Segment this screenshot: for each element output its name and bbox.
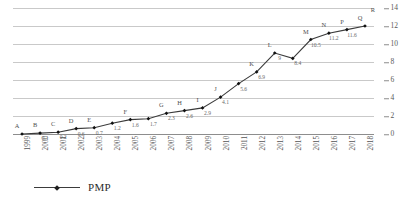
y-tick-label-8: 8 (384, 58, 406, 66)
point-value-8.4: 8.4 (294, 62, 301, 68)
point-letter-E: E (87, 116, 91, 122)
point-value-11.2: 11.2 (329, 36, 339, 42)
point-value-4.1: 4.1 (222, 100, 229, 106)
point-letter-C: C (51, 121, 55, 127)
point-letter-M: M (303, 28, 309, 34)
point-letter-B: B (33, 122, 37, 128)
plot-area (13, 8, 374, 134)
series-pmp (13, 8, 374, 134)
diamond-marker-icon (54, 185, 60, 191)
y-tick-label-12: 12 (384, 22, 406, 30)
point-letter-Q: Q (358, 15, 363, 21)
y-tick-label-6: 6 (384, 76, 406, 84)
y-tick-label-10: 10 (384, 40, 406, 48)
point-value-1.2: 1.2 (114, 126, 121, 132)
x-tick-label-2006: 2006 (151, 136, 158, 150)
x-tick-label-2017: 2017 (350, 136, 357, 150)
point-letter-P: P (340, 18, 344, 24)
point-value-2.3: 2.3 (168, 117, 175, 123)
point-letter-N: N (322, 22, 327, 28)
legend-line-swatch (34, 187, 80, 188)
x-tick-label-2007: 2007 (169, 136, 176, 150)
x-tick-label-2009: 2009 (206, 136, 213, 150)
y-tick-label-2: 2 (384, 112, 406, 120)
point-letter-G: G (159, 102, 164, 108)
x-tick-label-2002: 2002 (79, 136, 86, 150)
x-tick-label-2011: 2011 (242, 136, 249, 150)
point-letter-R: R (371, 7, 375, 13)
point-value-1.6: 1.6 (132, 123, 139, 129)
x-tick-label-2018: 2018 (368, 136, 375, 150)
x-tick-label-2004: 2004 (115, 136, 122, 150)
point-value-11.6: 11.6 (347, 33, 357, 39)
x-axis-labels: 1999200020012002200320042005200620072008… (13, 136, 374, 176)
point-value-1.7: 1.7 (150, 122, 157, 128)
x-tick-label-2005: 2005 (133, 136, 140, 150)
x-tick-label-2001: 2001 (61, 136, 68, 150)
point-letter-D: D (69, 117, 74, 123)
y-tick-label-4: 4 (384, 94, 406, 102)
x-tick-label-2000: 2000 (43, 136, 50, 150)
x-tick-label-2015: 2015 (314, 136, 321, 150)
point-letter-J: J (214, 86, 217, 92)
point-value-2.9: 2.9 (204, 111, 211, 117)
chart-container: 02468101214 ABCDEFGHIJKLMNPQR0.10.20.60.… (0, 0, 409, 211)
point-letter-I: I (196, 97, 198, 103)
point-value-5.6: 5.6 (240, 87, 247, 93)
x-tick-label-2013: 2013 (278, 136, 285, 150)
x-tick-label-2016: 2016 (332, 136, 339, 150)
x-tick-label-2003: 2003 (97, 136, 104, 150)
point-value-10.5: 10.5 (311, 43, 321, 49)
point-value-2.6: 2.6 (186, 114, 193, 120)
x-tick-label-2014: 2014 (296, 136, 303, 150)
point-letter-H: H (177, 99, 182, 105)
x-tick-label-2008: 2008 (187, 136, 194, 150)
y-tick-label-14: 14 (384, 4, 406, 12)
legend: PMP (34, 181, 111, 193)
point-letter-A: A (15, 123, 20, 129)
point-letter-F: F (124, 108, 128, 114)
y-tick-label-0: 0 (384, 130, 406, 138)
point-value-9: 9 (278, 56, 281, 62)
point-letter-K: K (249, 61, 254, 67)
gridline-0 (13, 134, 374, 135)
x-tick-label-2012: 2012 (260, 136, 267, 150)
point-letter-L: L (268, 42, 272, 48)
x-tick-label-2010: 2010 (224, 136, 231, 150)
point-value-6.9: 6.9 (258, 75, 265, 81)
legend-label-pmp: PMP (88, 181, 111, 193)
data-point-marker (363, 24, 367, 28)
x-tick-label-1999: 1999 (25, 136, 32, 150)
